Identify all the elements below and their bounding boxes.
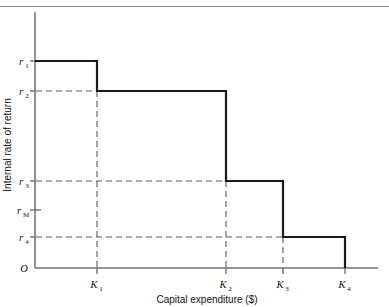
x-label-k4: K [337,279,346,290]
y-label-r2: r [19,86,24,97]
x-axis-title: Capital expenditure ($) [156,294,257,305]
y-label-rm-subscript: M [23,211,30,219]
y-label-r1-subscript: 1 [25,62,29,70]
x-label-k4-subscript: 4 [347,285,351,293]
origin-label: O [20,263,28,274]
chart-figure: pp r 1 r 2 r 3 r M r [0,0,389,307]
x-label-k1: K [89,279,98,290]
y-label-r1: r [19,56,24,67]
y-label-r2-subscript: 2 [25,92,29,100]
y-label-r4-subscript: 4 [25,238,29,246]
y-label-r3: r [19,176,24,187]
x-label-k2-subscript: 2 [228,285,232,293]
y-axis-title: Internal rate of return [2,98,13,191]
x-label-k1-subscript: 1 [99,285,103,293]
y-label-r3-subscript: 3 [25,182,29,190]
y-label-r4: r [19,232,24,243]
y-label-rm: r [17,205,22,216]
x-label-k3-subscript: 3 [285,285,289,293]
x-label-k3: K [275,279,284,290]
x-label-k2: K [218,279,227,290]
step-chart-svg: r 1 r 2 r 3 r M r 4 O K 1 K 2 K 3 K 4 Ca… [0,0,389,307]
